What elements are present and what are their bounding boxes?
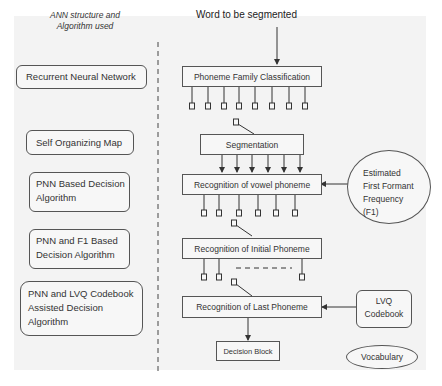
algorithm-line: PNN Based Decision <box>36 177 129 191</box>
f1-line: Frequency <box>363 193 430 206</box>
vocabulary-ellipse: Vocabulary <box>346 345 418 369</box>
f1-line: (F1) <box>363 206 430 219</box>
algorithm-line: Algorithm <box>36 191 129 205</box>
algorithm-line: Recurrent Neural Network <box>26 70 146 84</box>
algorithm-line: PNN and LVQ Codebook <box>28 287 142 301</box>
lvq-codebook-box: LVQ Codebook <box>356 290 412 328</box>
algorithm-box-rnn: Recurrent Neural Network <box>16 65 147 89</box>
initial-phoneme-recognition-box: Recognition of Initial Phoneme <box>182 238 322 259</box>
decision-block-box: Decision Block <box>216 341 280 361</box>
phoneme-family-classification-box: Phoneme Family Classification <box>182 66 322 87</box>
algorithm-line: Self Organizing Map <box>36 136 133 150</box>
f1-line: Estimated <box>363 167 430 180</box>
segmentation-box: Segmentation <box>200 134 304 155</box>
algorithm-line: Algorithm <box>28 315 142 329</box>
f1-estimate-ellipse: Estimated First Formant Frequency (F1) <box>347 150 431 224</box>
algorithm-line: PNN and F1 Based <box>36 234 129 248</box>
vowel-phoneme-recognition-box: Recognition of vowel phoneme <box>182 174 322 195</box>
algorithm-box-pnn-lvq: PNN and LVQ Codebook Assisted Decision A… <box>20 281 143 336</box>
algorithm-line: Assisted Decision <box>28 301 142 315</box>
lvq-line: Codebook <box>357 308 411 321</box>
input-label: Word to be segmented <box>196 9 297 20</box>
vocabulary-label: Vocabulary <box>361 352 403 362</box>
algorithm-box-som: Self Organizing Map <box>26 130 134 155</box>
algorithm-line: Decision Algorithm <box>36 248 129 262</box>
f1-line: First Formant <box>363 180 430 193</box>
last-phoneme-recognition-box: Recognition of Last Phoneme <box>182 296 322 318</box>
lvq-line: LVQ <box>357 295 411 308</box>
algorithm-box-pnn-f1: PNN and F1 Based Decision Algorithm <box>29 229 130 269</box>
algorithm-box-pnn: PNN Based Decision Algorithm <box>29 172 130 212</box>
